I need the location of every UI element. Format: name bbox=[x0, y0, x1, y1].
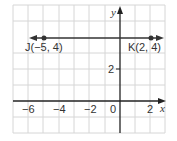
point-j bbox=[42, 36, 47, 41]
coordinate-plane: x y 2 −6 −4 −2 0 2 J(−5, 4) K(2, 4) bbox=[0, 0, 177, 141]
y-tick-2: 2 bbox=[108, 63, 114, 75]
y-axis-arrow-icon bbox=[117, 6, 123, 14]
x-tick-m4: −4 bbox=[53, 103, 66, 115]
point-k-label: K(2, 4) bbox=[128, 41, 161, 53]
y-axis-label: y bbox=[110, 6, 116, 18]
x-axis-label: x bbox=[159, 102, 165, 114]
x-tick-2: 2 bbox=[147, 103, 153, 115]
x-tick-m2: −2 bbox=[84, 103, 97, 115]
point-k bbox=[149, 36, 154, 41]
point-j-label: J(−5, 4) bbox=[25, 41, 63, 53]
x-tick-0: 0 bbox=[110, 103, 116, 115]
x-tick-m6: −6 bbox=[22, 103, 35, 115]
